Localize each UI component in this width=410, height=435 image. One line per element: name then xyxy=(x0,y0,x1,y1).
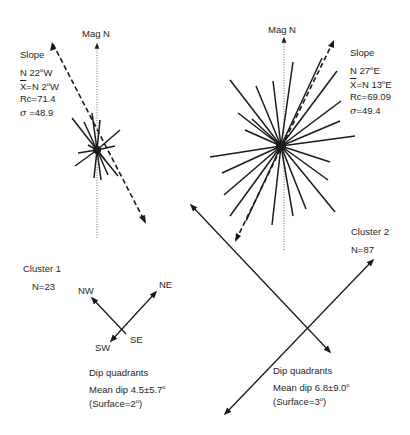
cluster1-dip-title: Dip quadrants xyxy=(89,366,166,380)
cluster1-rose xyxy=(50,42,146,238)
cluster1-slope-sigma: σ =48.9 xyxy=(20,106,59,121)
cluster2-slope-title: Slope xyxy=(350,46,392,61)
cluster2-slope-arrowhead-top xyxy=(328,40,334,48)
cluster1-slope-direction: N 22oW xyxy=(20,63,59,78)
cluster1-name: Cluster 1 xyxy=(23,263,61,275)
cluster2-slope-mean: X=N 13oE xyxy=(350,75,392,90)
cluster1-mean-dip: Mean dip 4.5±5.7o xyxy=(89,380,166,394)
cluster1-slope-stats: Slope N 22oW X=N 2oW Rc=71.4 σ =48.9 xyxy=(20,48,59,121)
cluster1-nw-se-arrow xyxy=(92,298,126,334)
cluster2-dip-title: Dip quadrants xyxy=(273,364,350,378)
figure-canvas: Mag N Mag N Slope N 22oW X=N 2oW Rc=71.4… xyxy=(0,0,410,435)
cluster1-slope-title: Slope xyxy=(20,48,59,63)
cluster1-dip-quadrants xyxy=(92,292,156,341)
cluster2-north-label: Mag N xyxy=(268,24,296,36)
cluster2-slope-stats: Slope N 27oE X=N 13oE Rc=69.09 σ=49.4 xyxy=(350,46,392,119)
cluster2-nw-se-arrow xyxy=(191,205,330,352)
cluster1-dip-stats: Dip quadrants Mean dip 4.5±5.7o (Surface… xyxy=(89,366,166,408)
cluster1-slope-arrowhead-bottom xyxy=(139,215,146,224)
quadrant-label-nw: NW xyxy=(78,285,94,297)
cluster1-slope-rc: Rc=71.4 xyxy=(20,92,59,107)
quadrant-label-sw: SW xyxy=(95,342,110,354)
cluster1-surface: (Surface=2o) xyxy=(89,394,166,408)
cluster2-name: Cluster 2 xyxy=(351,226,389,238)
cluster2-dip-stats: Dip quadrants Mean dip 6.8±9.0o (Surface… xyxy=(273,364,350,406)
quadrant-label-ne: NE xyxy=(159,279,172,291)
cluster2-slope-sigma: σ=49.4 xyxy=(350,104,392,119)
quadrant-label-se: SE xyxy=(130,334,143,346)
cluster1-slope-mean: X=N 2oW xyxy=(20,77,59,92)
cluster2-mean-dip: Mean dip 6.8±9.0o xyxy=(273,378,350,392)
cluster1-count: N=23 xyxy=(32,281,55,293)
cluster2-surface: (Surface=3o) xyxy=(273,392,350,406)
cluster2-slope-arrowhead-bottom xyxy=(235,233,241,242)
cluster2-count: N=87 xyxy=(351,244,374,256)
cluster2-rose xyxy=(210,38,355,250)
cluster2-slope-rc: Rc=69.09 xyxy=(350,90,392,105)
cluster1-north-label: Mag N xyxy=(82,28,110,40)
cluster2-slope-direction: N 27oE xyxy=(350,61,392,76)
